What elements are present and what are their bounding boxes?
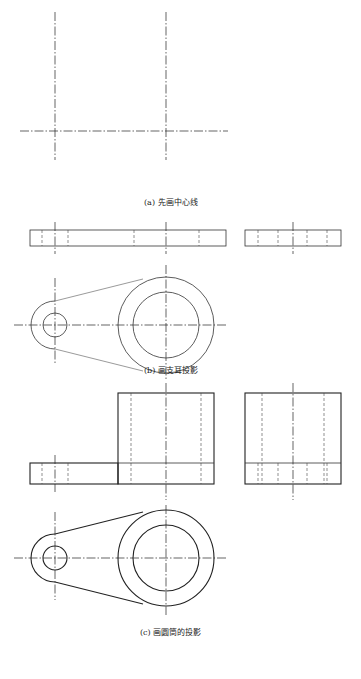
tangent-line-top xyxy=(55,279,143,301)
panel-a-centerlines xyxy=(20,12,228,160)
tangent-line-bottom-c xyxy=(55,582,143,604)
caption-a: (a) 先画中心线 xyxy=(144,197,198,207)
panel-b-side-view xyxy=(245,222,341,254)
panel-b-front-view xyxy=(30,222,226,254)
panel-c-front-view xyxy=(30,383,214,500)
caption-c: (c) 画圆筒的投影 xyxy=(140,627,201,637)
ear-plate-front-c xyxy=(30,463,118,484)
panel-c-side-view xyxy=(245,383,341,500)
technical-drawing: (a) 先画中心线 (b) 画支耳投影 xyxy=(0,0,361,679)
tangent-line-bottom xyxy=(55,349,143,371)
panel-b-top-view xyxy=(14,265,228,380)
tangent-line-top-c xyxy=(55,512,143,534)
panel-c-top-view xyxy=(14,505,228,615)
caption-b: (b) 画支耳投影 xyxy=(144,365,198,375)
ear-plate-front xyxy=(30,230,226,246)
